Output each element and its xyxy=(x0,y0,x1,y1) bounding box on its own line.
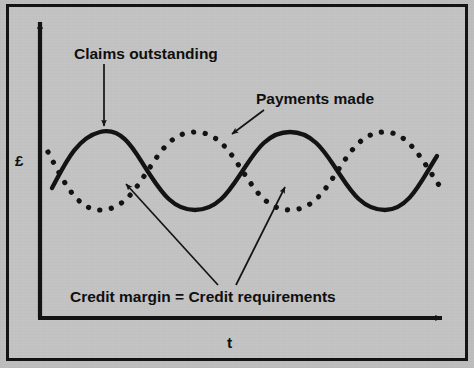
claims-outstanding-curve xyxy=(52,131,437,210)
chart-canvas xyxy=(0,0,474,368)
payments-made-arrow xyxy=(232,110,264,134)
series-claims-outstanding xyxy=(52,131,437,210)
axes xyxy=(38,22,442,318)
label-credit-margin: Credit margin = Credit requirements xyxy=(70,288,336,306)
credit-margin-arrow-right xyxy=(236,187,285,285)
label-claims-outstanding: Claims outstanding xyxy=(74,45,218,63)
figure-root: Claims outstanding Payments made Credit … xyxy=(0,0,474,368)
label-payments-made: Payments made xyxy=(256,90,374,108)
axis-label-x: t xyxy=(227,334,232,352)
axis-label-y: £ xyxy=(15,152,23,169)
